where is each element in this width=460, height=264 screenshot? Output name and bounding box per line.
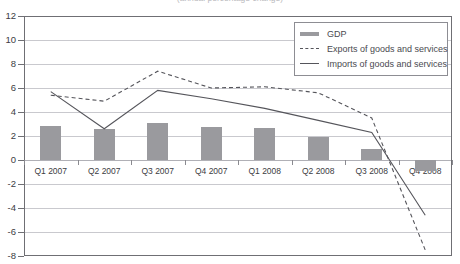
y-axis-tick <box>18 256 24 257</box>
y-axis-label: -8 <box>0 251 16 261</box>
chart-subtitle-clipped: (annual percentage change) <box>0 0 460 9</box>
legend-item-gdp: GDP <box>299 26 443 41</box>
y-axis-label: -6 <box>0 227 16 237</box>
y-axis-label: 10 <box>0 35 16 45</box>
legend-swatch-dashed-icon <box>299 44 321 54</box>
line-exports <box>51 71 426 250</box>
legend-label-imports: Imports of goods and services <box>327 59 447 69</box>
chart-container: (annual percentage change) 121086420-2-4… <box>0 0 460 264</box>
y-axis-label: 12 <box>0 11 16 21</box>
x-axis-tick <box>452 160 453 165</box>
legend-swatch-solid-icon <box>299 59 321 69</box>
y-axis-label: -2 <box>0 179 16 189</box>
chart-legend: GDP Exports of goods and services Import… <box>294 22 448 76</box>
line-imports <box>51 90 426 215</box>
legend-item-imports: Imports of goods and services <box>299 56 443 71</box>
legend-label-exports: Exports of goods and services <box>327 44 448 54</box>
legend-item-exports: Exports of goods and services <box>299 41 443 56</box>
y-axis-label: 8 <box>0 59 16 69</box>
legend-swatch-bar-icon <box>299 29 321 39</box>
legend-label-gdp: GDP <box>327 29 347 39</box>
y-axis-label: 6 <box>0 83 16 93</box>
y-axis-label: -4 <box>0 203 16 213</box>
y-axis-label: 0 <box>0 155 16 165</box>
chart-subtitle-text: (annual percentage change) <box>177 0 283 3</box>
y-axis-label: 4 <box>0 107 16 117</box>
y-axis-label: 2 <box>0 131 16 141</box>
